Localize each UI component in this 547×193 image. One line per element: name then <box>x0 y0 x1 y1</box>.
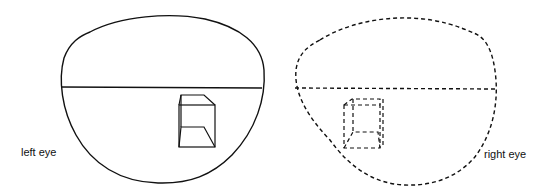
right-cube <box>344 99 383 148</box>
left-horizon-line <box>61 87 262 88</box>
left-eye-label: left eye <box>21 146 56 158</box>
right-horizon-line <box>295 88 496 89</box>
right-eye-outline <box>296 18 497 185</box>
right-eye-label: right eye <box>484 148 526 160</box>
left-eye-outline <box>61 16 264 183</box>
right-eye-field <box>295 18 496 185</box>
stereo-view-diagram <box>0 0 547 193</box>
left-cube <box>179 95 215 147</box>
left-eye-field <box>61 16 264 183</box>
